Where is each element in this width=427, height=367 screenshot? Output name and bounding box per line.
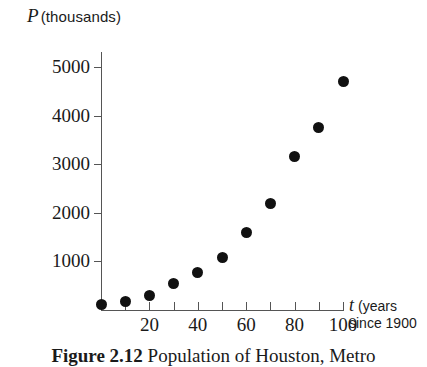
x-tick xyxy=(270,302,271,311)
data-point xyxy=(241,227,252,238)
y-tick xyxy=(94,261,102,262)
y-tick-label: 5000 xyxy=(52,57,90,76)
y-tick-label: 3000 xyxy=(52,154,90,173)
y-tick xyxy=(94,164,102,165)
x-tick-label: 80 xyxy=(270,315,320,334)
figure-caption-text: Population of Houston, Metro xyxy=(148,345,376,366)
x-tick-label: 20 xyxy=(124,315,174,334)
figure-caption-number: Figure 2.12 xyxy=(51,345,142,366)
y-tick-label: 1000 xyxy=(52,251,90,270)
y-tick-label: 2000 xyxy=(52,203,90,222)
x-axis-symbol: t xyxy=(349,295,354,315)
y-tick xyxy=(94,116,102,117)
data-point xyxy=(144,290,155,301)
x-tick xyxy=(149,302,150,311)
x-tick xyxy=(343,302,344,311)
data-point xyxy=(338,76,349,87)
y-axis-line xyxy=(101,52,102,311)
y-tick xyxy=(94,67,102,68)
y-tick-label: 4000 xyxy=(52,106,90,125)
x-tick xyxy=(295,302,296,311)
x-tick xyxy=(246,302,247,311)
data-point xyxy=(192,267,203,278)
x-tick xyxy=(222,302,223,311)
x-tick xyxy=(174,302,175,311)
x-axis-label: t (years since 1900 xyxy=(349,296,417,331)
x-axis-unit-line2: since 1900 xyxy=(349,316,417,331)
data-point xyxy=(120,296,131,307)
x-tick xyxy=(198,302,199,311)
x-tick-label: 60 xyxy=(221,315,271,334)
data-point xyxy=(217,252,228,263)
data-point xyxy=(168,278,179,289)
data-point xyxy=(289,151,300,162)
data-point xyxy=(96,299,107,310)
x-tick-label: 40 xyxy=(173,315,223,334)
y-tick xyxy=(94,213,102,214)
figure-caption: Figure 2.12 Population of Houston, Metro xyxy=(0,345,427,367)
x-axis-unit: (years xyxy=(358,298,397,314)
data-point xyxy=(265,198,276,209)
data-point xyxy=(313,122,324,133)
x-tick xyxy=(319,302,320,311)
